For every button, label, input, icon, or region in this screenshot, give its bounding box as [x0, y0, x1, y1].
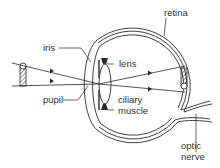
label-iris: iris [43, 43, 55, 53]
label-ciliary-muscle-line1: ciliary [118, 95, 142, 105]
cornea [84, 40, 101, 130]
label-optic-nerve-line1: optic [181, 141, 201, 151]
image-inverted [181, 68, 187, 89]
label-retina: retina [164, 8, 188, 18]
label-pupil: pupil [43, 95, 63, 105]
label-optic-nerve-line2: nerve [181, 152, 205, 162]
leader-lines [59, 18, 196, 152]
label-lens: lens [119, 59, 136, 69]
label-ciliary-muscle-line2: muscle [118, 106, 148, 116]
optic-nerve-shape [175, 101, 212, 122]
